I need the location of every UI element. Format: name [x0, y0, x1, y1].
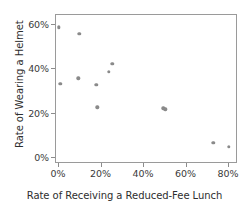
x-tick-label: 60%	[175, 168, 196, 179]
x-tick-label: 0%	[51, 168, 66, 179]
x-axis-title: Rate of Receiving a Reduced-Fee Lunch	[0, 190, 249, 201]
x-tick-mark	[228, 163, 229, 167]
x-tick-label: 80%	[218, 168, 239, 179]
x-tick-mark	[101, 163, 102, 167]
y-axis-title: Rate of Wearing a Helmet	[14, 20, 25, 148]
x-tick-mark	[186, 163, 187, 167]
plot-area	[55, 14, 237, 163]
x-tick-label: 20%	[90, 168, 111, 179]
y-tick-mark	[51, 113, 55, 114]
scatter-plot-figure: 0%20%40%60%80% 0%20%40%60% Rate of Recei…	[0, 0, 249, 211]
x-tick-label: 40%	[133, 168, 154, 179]
y-tick-label: 0%	[22, 152, 49, 163]
x-tick-mark	[143, 163, 144, 167]
y-tick-mark	[51, 157, 55, 158]
y-tick-label: 20%	[22, 107, 49, 118]
y-tick-mark	[51, 24, 55, 25]
y-tick-label: 60%	[22, 18, 49, 29]
x-tick-mark	[58, 163, 59, 167]
y-tick-mark	[51, 68, 55, 69]
y-tick-label: 40%	[22, 63, 49, 74]
